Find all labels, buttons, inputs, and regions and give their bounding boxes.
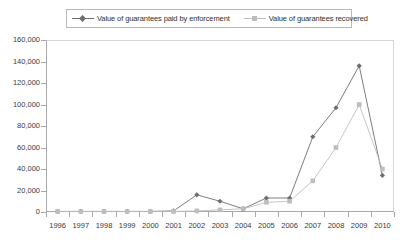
y-tick-label: 80,000 (0, 122, 40, 130)
x-tick-label: 2010 (374, 221, 391, 230)
x-tick-mark (139, 212, 140, 217)
x-tick-label: 2003 (212, 221, 229, 230)
x-tick-mark (46, 212, 47, 217)
y-tick-mark (41, 126, 46, 127)
x-tick-label: 2006 (281, 221, 298, 230)
x-tick-mark (348, 212, 349, 217)
x-tick-mark (69, 212, 70, 217)
x-tick-mark (92, 212, 93, 217)
x-tick-label: 1996 (49, 221, 66, 230)
y-tick-mark (41, 83, 46, 84)
line-chart: Value of guarantees paid by enforcement … (0, 0, 401, 241)
x-tick-mark (371, 212, 372, 217)
x-tick-label: 2005 (258, 221, 275, 230)
x-tick-mark (185, 212, 186, 217)
chart-legend: Value of guarantees paid by enforcement … (66, 9, 352, 28)
legend-diamond-marker-icon (79, 15, 86, 22)
x-tick-mark (208, 212, 209, 217)
x-tick-mark (324, 212, 325, 217)
y-tick-mark (41, 169, 46, 170)
x-tick-label: 2007 (304, 221, 321, 230)
legend-marker-recovered-icon (244, 14, 266, 23)
x-tick-mark (278, 212, 279, 217)
legend-label-paid: Value of guarantees paid by enforcement (97, 14, 230, 23)
y-tick-mark (41, 105, 46, 106)
x-tick-label: 2008 (328, 221, 345, 230)
x-tick-mark (116, 212, 117, 217)
x-tick-label: 2009 (351, 221, 368, 230)
x-tick-label: 1999 (119, 221, 136, 230)
y-tick-mark (41, 40, 46, 41)
x-tick-mark (255, 212, 256, 217)
y-tick-label: 160,000 (0, 36, 40, 44)
y-tick-label: 120,000 (0, 79, 40, 87)
x-tick-label: 1997 (72, 221, 89, 230)
legend-entry-paid[interactable]: Value of guarantees paid by enforcement (72, 14, 230, 23)
y-tick-label: 60,000 (0, 144, 40, 152)
legend-marker-paid-icon (72, 14, 94, 23)
x-tick-label: 1998 (96, 221, 113, 230)
y-tick-label: 20,000 (0, 187, 40, 195)
legend-square-marker-icon (252, 16, 257, 21)
x-tick-mark (301, 212, 302, 217)
y-tick-mark (41, 148, 46, 149)
x-tick-label: 2002 (188, 221, 205, 230)
y-tick-mark (41, 191, 46, 192)
y-tick-mark (41, 62, 46, 63)
x-tick-label: 2000 (142, 221, 159, 230)
y-tick-label: 100,000 (0, 101, 40, 109)
legend-label-recovered: Value of guarantees recovered (269, 14, 368, 23)
legend-entry-recovered[interactable]: Value of guarantees recovered (244, 14, 368, 23)
x-tick-mark (394, 212, 395, 217)
y-tick-label: 0 (0, 208, 40, 216)
x-tick-mark (232, 212, 233, 217)
x-tick-label: 2001 (165, 221, 182, 230)
y-tick-label: 40,000 (0, 165, 40, 173)
x-tick-label: 2004 (235, 221, 252, 230)
plot-area (46, 40, 394, 212)
y-tick-label: 140,000 (0, 58, 40, 66)
x-tick-mark (162, 212, 163, 217)
